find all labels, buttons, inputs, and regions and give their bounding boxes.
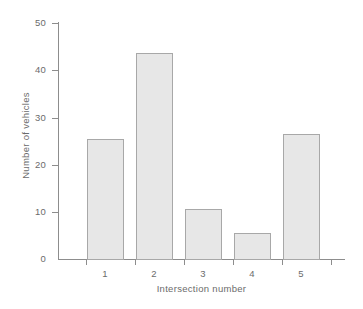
x-axis-tick-label-3: 3 bbox=[183, 268, 223, 279]
bar-intersection-5 bbox=[283, 134, 320, 260]
y-axis-tick-40 bbox=[52, 70, 59, 71]
y-axis-tick-30 bbox=[52, 118, 59, 119]
y-axis-tick-20 bbox=[52, 165, 59, 166]
bar-intersection-1 bbox=[87, 139, 124, 260]
bar-chart-figure: 50 40 30 20 10 0 1 2 3 4 5 Intersection … bbox=[0, 0, 363, 309]
x-axis-tick-label-1: 1 bbox=[85, 268, 125, 279]
x-axis-tick-4 bbox=[233, 259, 234, 265]
y-axis-tick-10 bbox=[52, 212, 59, 213]
x-axis-title: Intersection number bbox=[58, 283, 345, 294]
x-axis-tick-label-4: 4 bbox=[232, 268, 272, 279]
y-axis-tick-label-50: 50 bbox=[6, 18, 46, 28]
bar-intersection-3 bbox=[185, 209, 222, 260]
x-axis-tick-label-2: 2 bbox=[134, 268, 174, 279]
x-axis-tick-5 bbox=[282, 259, 283, 265]
y-axis-line bbox=[58, 22, 59, 260]
y-axis-tick-label-0: 0 bbox=[6, 254, 46, 264]
x-axis-tick-end bbox=[331, 259, 332, 265]
y-axis-title: Number of vehicles bbox=[20, 66, 31, 206]
bar-intersection-2 bbox=[136, 53, 173, 260]
x-axis-tick-1 bbox=[86, 259, 87, 265]
bar-intersection-4 bbox=[234, 233, 271, 260]
x-axis-tick-2 bbox=[135, 259, 136, 265]
x-axis-tick-3 bbox=[184, 259, 185, 265]
y-axis-tick-label-10: 10 bbox=[6, 207, 46, 217]
x-axis-tick-label-5: 5 bbox=[281, 268, 321, 279]
y-axis-tick-50 bbox=[52, 23, 59, 24]
